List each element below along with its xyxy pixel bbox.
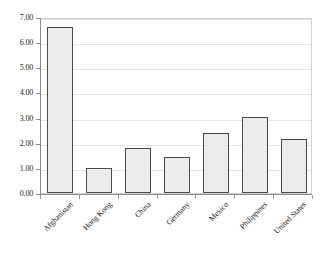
y-tick-label: 0.00 bbox=[20, 190, 33, 198]
bar-philippines bbox=[242, 117, 268, 193]
y-tick-label: 3.00 bbox=[20, 115, 33, 123]
x-tick-mark bbox=[157, 195, 158, 199]
y-tick-label: 4.00 bbox=[20, 89, 33, 97]
gridline bbox=[41, 94, 311, 95]
y-tick-mark bbox=[36, 169, 40, 170]
x-tick-mark bbox=[79, 195, 80, 199]
x-tick-mark bbox=[312, 195, 313, 199]
y-tick-mark bbox=[36, 119, 40, 120]
gridline bbox=[41, 44, 311, 45]
y-tick-mark bbox=[36, 144, 40, 145]
x-tick-mark bbox=[234, 195, 235, 199]
y-tick-label: 5.00 bbox=[20, 64, 33, 72]
bar-afghanistan bbox=[47, 27, 73, 193]
gridline bbox=[41, 69, 311, 70]
bar-china bbox=[125, 148, 151, 193]
y-tick-label: 7.00 bbox=[20, 14, 33, 22]
bar-united-states bbox=[281, 139, 307, 193]
bar-hong-kong bbox=[86, 168, 112, 193]
x-axis-line bbox=[40, 194, 312, 195]
bar-mexico bbox=[203, 133, 229, 193]
x-tick-mark bbox=[273, 195, 274, 199]
y-tick-mark bbox=[36, 18, 40, 19]
bar-chart-figure: 0.001.002.003.004.005.006.007.00 Afghani… bbox=[0, 0, 325, 253]
y-tick-label: 1.00 bbox=[20, 165, 33, 173]
x-tick-mark bbox=[40, 195, 41, 199]
y-axis-line bbox=[40, 18, 41, 195]
y-tick-label: 6.00 bbox=[20, 39, 33, 47]
gridline bbox=[41, 19, 311, 20]
y-tick-mark bbox=[36, 43, 40, 44]
y-tick-mark bbox=[36, 68, 40, 69]
gridline bbox=[41, 145, 311, 146]
x-tick-mark bbox=[118, 195, 119, 199]
gridline bbox=[41, 120, 311, 121]
y-tick-label: 2.00 bbox=[20, 140, 33, 148]
bar-germany bbox=[164, 157, 190, 193]
x-tick-mark bbox=[195, 195, 196, 199]
plot-area bbox=[40, 18, 312, 194]
y-tick-mark bbox=[36, 93, 40, 94]
